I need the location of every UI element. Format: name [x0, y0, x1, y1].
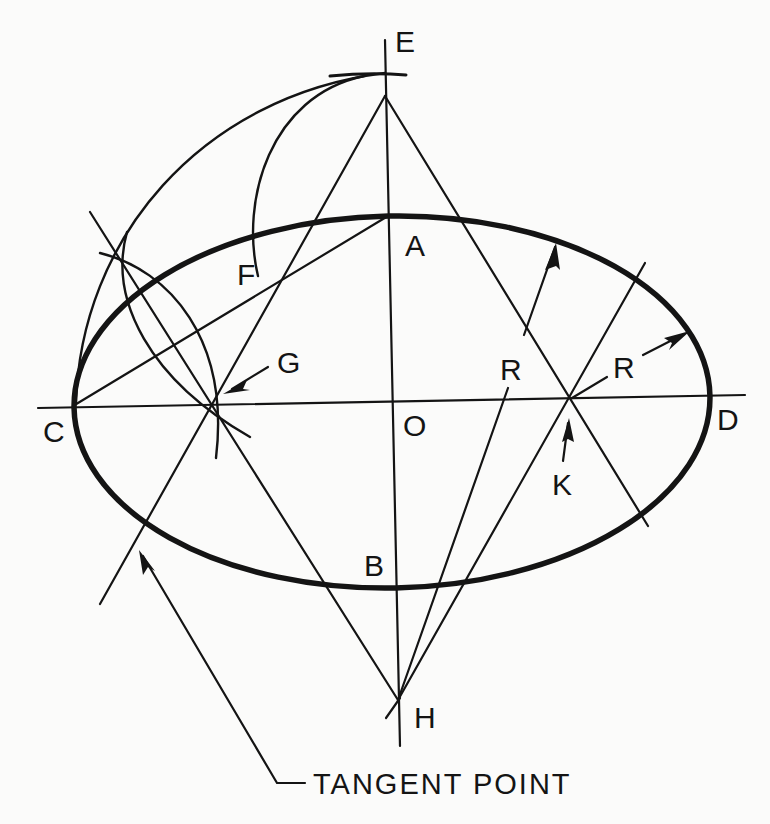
label-a: A [405, 229, 425, 262]
radius-arrow-right-head [664, 331, 690, 350]
label-d: D [717, 403, 739, 436]
label-g: G [277, 346, 300, 379]
line-h-k [398, 263, 645, 700]
label-r-upper: R [500, 353, 522, 386]
ellipse-construction-diagram: E A F G R R C O D K B H TANGENT POINT [0, 0, 770, 824]
line-h-tick [386, 698, 400, 718]
k-pointer-head [562, 418, 574, 442]
label-h: H [414, 701, 436, 734]
g-pointer-head [223, 380, 250, 394]
line-e-g [100, 96, 385, 604]
minor-axis-line [385, 40, 400, 746]
label-r-right: R [613, 351, 635, 384]
line-e-k [385, 96, 648, 526]
radius-arrow-upper-head [545, 243, 560, 270]
arc-oc-radius [76, 73, 385, 404]
label-k: K [552, 468, 572, 501]
label-b: B [364, 549, 384, 582]
diagram-canvas: E A F G R R C O D K B H TANGENT POINT [0, 0, 770, 824]
label-e: E [395, 25, 415, 58]
tangent-point-caption: TANGENT POINT [313, 768, 572, 800]
label-c: C [43, 415, 65, 448]
label-f: F [237, 258, 255, 291]
radius-leader-right [572, 377, 607, 398]
tangent-point-leader [143, 556, 305, 783]
label-o: O [403, 409, 426, 442]
